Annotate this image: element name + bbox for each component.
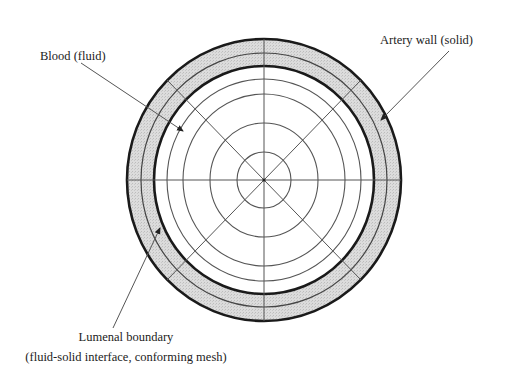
artery-wall-arrow [381, 51, 449, 120]
lumenal-boundary-arrow [113, 228, 160, 328]
lumenal-boundary-label: Lumenal boundary [79, 330, 175, 344]
center-node [262, 178, 265, 181]
artery-cross-section-diagram: Blood (fluid) Artery wall (solid) Lumena… [0, 0, 517, 375]
blood-label: Blood (fluid) [40, 49, 106, 63]
artery-wall-label: Artery wall (solid) [380, 33, 473, 47]
lumenal-boundary-sublabel: (fluid-solid interface, conforming mesh) [25, 350, 226, 364]
